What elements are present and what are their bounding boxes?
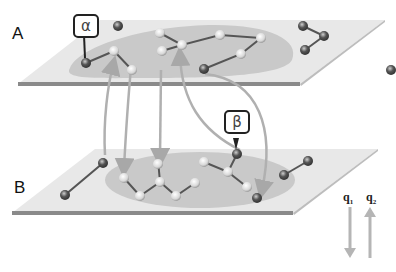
plane-a-label: A: [12, 24, 23, 44]
q2-arrow: [364, 207, 376, 258]
beta-callout: β: [224, 110, 250, 134]
alpha-callout: α: [73, 14, 99, 38]
plane-b-label: B: [14, 178, 25, 198]
q1-arrow: [344, 207, 356, 258]
diagram-canvas: [0, 0, 396, 272]
alpha-pointer: [84, 35, 85, 58]
q1-label: q1: [343, 190, 353, 206]
q2-label: q2: [366, 190, 376, 206]
